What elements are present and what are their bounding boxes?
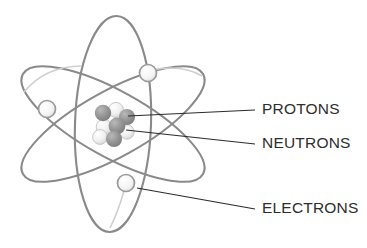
label-electrons: ELECTRONS xyxy=(262,199,359,216)
proton-particle xyxy=(95,105,111,121)
label-neutrons: NEUTRONS xyxy=(262,134,351,151)
electron-left xyxy=(39,101,56,118)
electron-bottom xyxy=(118,175,135,192)
electron-top-right xyxy=(140,65,157,82)
neutron-particle xyxy=(93,130,108,145)
proton-particle xyxy=(106,131,122,147)
label-protons: PROTONS xyxy=(262,100,340,117)
atom-diagram: PROTONS NEUTRONS ELECTRONS xyxy=(0,0,367,248)
atom-diagram-canvas: PROTONS NEUTRONS ELECTRONS xyxy=(0,0,367,248)
